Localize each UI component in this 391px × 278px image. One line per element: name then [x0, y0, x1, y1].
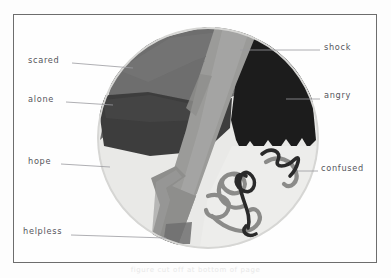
label-helpless: helpless — [23, 227, 62, 235]
label-scared: scared — [28, 56, 59, 64]
label-shock: shock — [324, 43, 351, 51]
picture-frame — [13, 14, 377, 263]
label-confused: confused — [321, 164, 364, 172]
label-angry: angry — [324, 91, 351, 99]
label-alone: alone — [28, 95, 54, 103]
artwork-canvas: scared alone hope helpless shock angry c… — [0, 0, 391, 278]
label-hope: hope — [28, 157, 51, 165]
page-caption: figure cut off at bottom of page — [0, 266, 391, 274]
